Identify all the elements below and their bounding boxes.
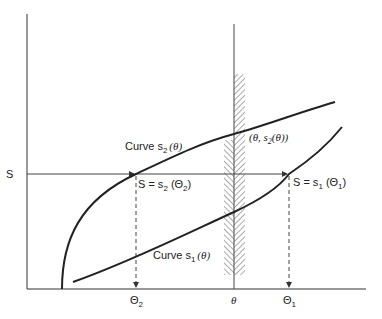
point-s2-annotation: (θ, s2(θ)) [249, 131, 289, 146]
x-tick-theta2: Θ2 [130, 294, 144, 309]
s-equals-s1-label: S = s1 (Θ1) [293, 176, 346, 191]
curve-s1-label: Curve s1(θ) [153, 249, 210, 264]
x-tick-theta: θ [231, 294, 237, 306]
diagram-canvas: S Curve s2(θ) Curve s1(θ) (θ, s2(θ)) S =… [0, 0, 382, 319]
s-equals-s2-label: S = s2 (Θ2) [138, 178, 191, 193]
x-tick-theta1: Θ1 [283, 294, 297, 309]
curve-s2-label: Curve s2(θ) [125, 140, 182, 155]
y-axis-label: S [6, 168, 13, 180]
